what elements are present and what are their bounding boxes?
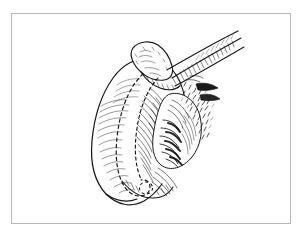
page-root (0, 0, 298, 232)
illustration-frame (11, 13, 291, 224)
